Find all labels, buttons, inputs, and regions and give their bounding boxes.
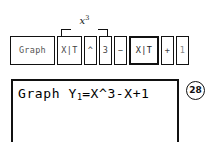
exponent-annotation-label: x3 <box>61 15 108 26</box>
screen-equation-subscript: 1 <box>77 92 82 102</box>
x-t-key-2[interactable]: X|T <box>129 36 159 65</box>
graph-key[interactable]: Graph <box>10 36 55 65</box>
screen-line-equation: Graph Y1=X^3-X+1 <box>18 86 150 103</box>
exponent-annotation-group: x3 <box>61 15 108 37</box>
figure-number-badge: 28 <box>186 81 205 100</box>
minus-key[interactable]: − <box>114 36 127 65</box>
three-key[interactable]: 3 <box>99 36 112 65</box>
annotation-exponent: 3 <box>85 14 89 22</box>
calculator-screen: Graph Y1=X^3-X+1 <box>11 79 179 142</box>
one-key[interactable]: 1 <box>176 36 189 65</box>
screen-equation-suffix: =X^3-X+1 <box>82 86 149 101</box>
screen-equation-prefix: Graph Y <box>18 86 77 101</box>
keystroke-sequence: Graph X|T ^ 3 − X|T + 1 <box>10 36 189 65</box>
caret-key[interactable]: ^ <box>84 36 97 65</box>
x-t-key[interactable]: X|T <box>57 36 82 65</box>
plus-key[interactable]: + <box>161 36 174 65</box>
